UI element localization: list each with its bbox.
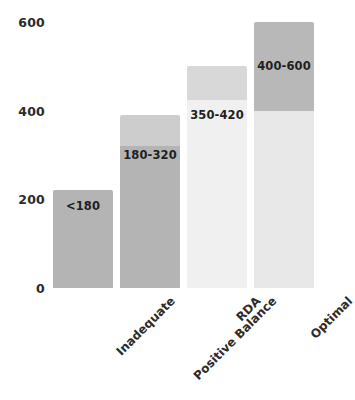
x-tick-label-positive-balance: Positive Balance	[191, 294, 280, 383]
x-tick-label-optimal: Optimal	[308, 294, 355, 342]
x-tick-label-inadequate: Inadequate	[114, 294, 178, 358]
